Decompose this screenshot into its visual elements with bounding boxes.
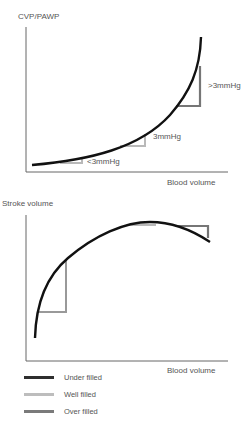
- legend-label: Under filled: [64, 373, 102, 382]
- legend-label: Well filled: [64, 390, 96, 399]
- annotation-mid: 3mmHg: [153, 132, 181, 141]
- bottom-chart-triangles: [38, 225, 208, 312]
- legend-swatch-under: [24, 376, 54, 379]
- annotation-large: >3mmHg: [208, 81, 241, 90]
- legend-item-over-filled: Over filled: [24, 403, 102, 420]
- top-chart-curve: [32, 37, 201, 165]
- bottom-chart-axes: [26, 215, 228, 361]
- diagram-canvas: [0, 0, 246, 425]
- bottom-y-axis-label: Stroke volume: [2, 199, 53, 208]
- legend-item-well-filled: Well filled: [24, 386, 102, 403]
- bottom-chart-curve: [35, 222, 210, 338]
- annotation-small: <3mmHg: [87, 157, 120, 166]
- legend: Under filled Well filled Over filled: [24, 369, 102, 420]
- legend-swatch-well: [24, 393, 54, 396]
- bottom-x-axis-label: Blood volume: [167, 366, 215, 375]
- top-y-axis-label: CVP/PAWP: [18, 12, 59, 21]
- legend-label: Over filled: [64, 407, 98, 416]
- top-x-axis-label: Blood volume: [167, 178, 215, 187]
- legend-swatch-over: [24, 410, 54, 413]
- top-chart-triangles: [60, 66, 200, 163]
- top-chart-axes: [26, 27, 228, 172]
- legend-item-under-filled: Under filled: [24, 369, 102, 386]
